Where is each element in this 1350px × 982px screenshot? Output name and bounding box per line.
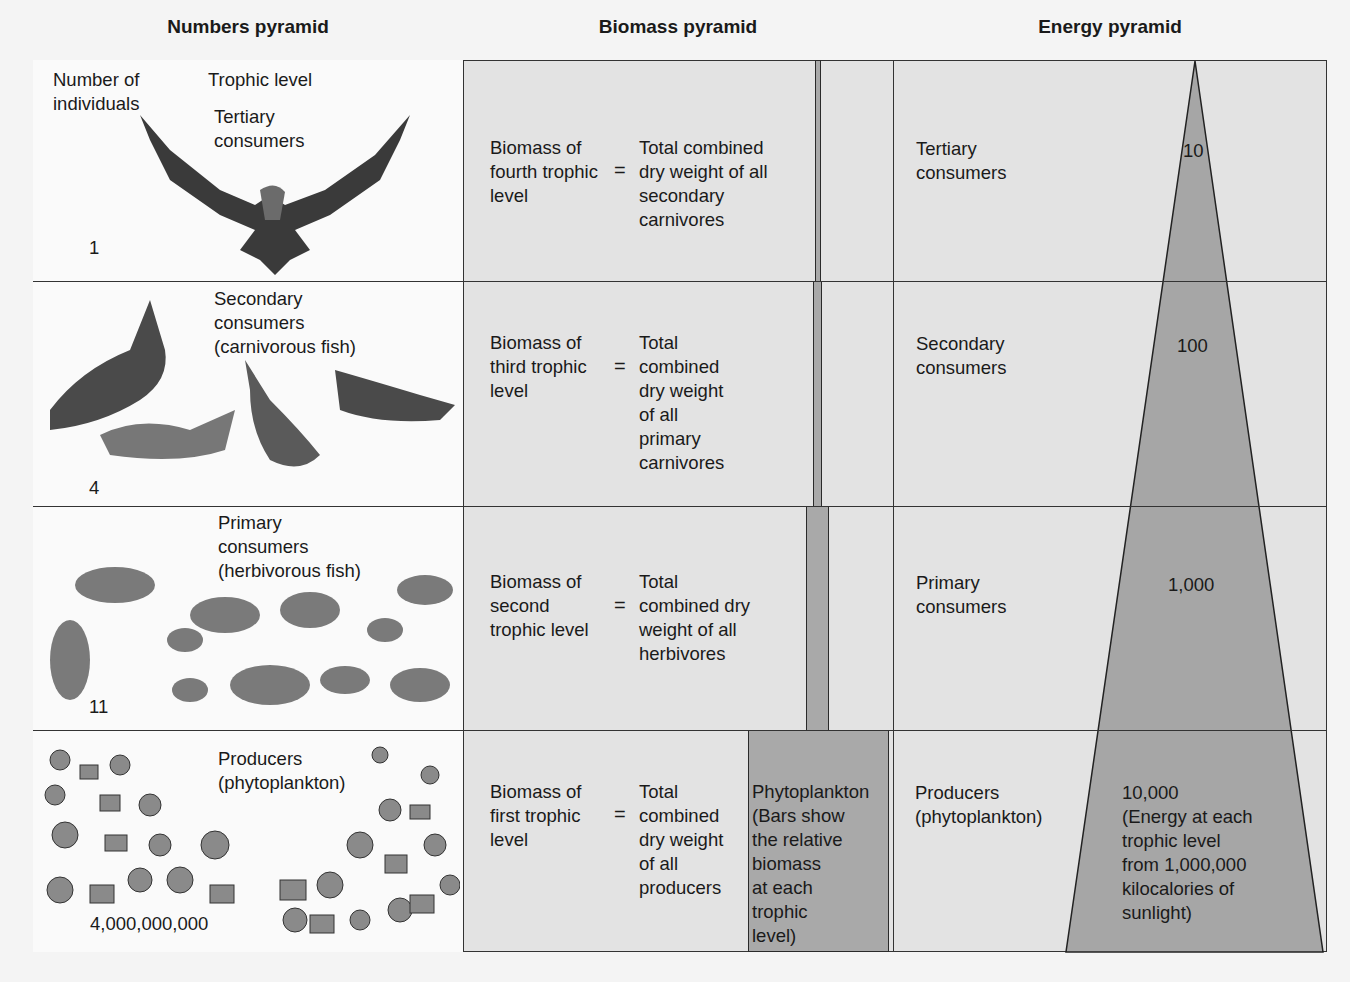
- energy-row-3-level: Primary consumers: [916, 571, 1006, 619]
- numbers-row-3-count: 11: [89, 695, 108, 719]
- biomass-row-1-equals: =: [614, 159, 626, 182]
- numbers-row-3-level: Primary consumers (herbivorous fish): [218, 511, 361, 583]
- row-divider-3: [33, 730, 1327, 731]
- energy-row-3-value: 1,000: [1168, 573, 1214, 597]
- numbers-row-1-count: 1: [89, 236, 99, 260]
- trophic-level-header: Trophic level: [208, 68, 312, 92]
- biomass-row-4-right: Total combined dry weight of all produce…: [639, 780, 723, 900]
- biomass-bar-caption: Phytoplankton (Bars show the relative bi…: [752, 780, 869, 948]
- energy-row-2-level: Secondary consumers: [916, 332, 1006, 380]
- biomass-row-2-equals: =: [614, 355, 626, 378]
- energy-row-1-value: 10: [1183, 139, 1204, 163]
- biomass-row-1-left: Biomass of fourth trophic level: [490, 136, 598, 208]
- biomass-bar-level-4: [815, 60, 821, 282]
- numbers-row-4-count: 4,000,000,000: [90, 912, 208, 936]
- number-of-individuals-header: Number of individuals: [53, 68, 139, 116]
- energy-row-2-value: 100: [1177, 334, 1208, 358]
- biomass-row-1-right: Total combined dry weight of all seconda…: [639, 136, 768, 232]
- numbers-row-4-level: Producers (phytoplankton): [218, 747, 346, 795]
- row-divider-1: [33, 281, 1327, 282]
- biomass-row-3-right: Total combined dry weight of all herbivo…: [639, 570, 750, 666]
- numbers-row-2-count: 4: [89, 476, 99, 500]
- biomass-row-3-equals: =: [614, 594, 626, 617]
- energy-row-1-level: Tertiary consumers: [916, 137, 1006, 185]
- biomass-row-3-left: Biomass of second trophic level: [490, 570, 589, 642]
- biomass-row-4-equals: =: [614, 803, 626, 826]
- numbers-row-1-level: Tertiary consumers: [214, 105, 304, 153]
- biomass-row-2-left: Biomass of third trophic level: [490, 331, 587, 403]
- biomass-bar-level-3: [813, 281, 822, 507]
- biomass-row-2-right: Total combined dry weight of all primary…: [639, 331, 724, 475]
- biomass-bar-level-2: [806, 506, 829, 731]
- row-divider-2: [33, 506, 1327, 507]
- energy-row-4-value: 10,000 (Energy at each trophic level fro…: [1122, 781, 1253, 925]
- numbers-row-2-level: Secondary consumers (carnivorous fish): [214, 287, 356, 359]
- biomass-row-4-left: Biomass of first trophic level: [490, 780, 582, 852]
- energy-row-4-level: Producers (phytoplankton): [915, 781, 1043, 829]
